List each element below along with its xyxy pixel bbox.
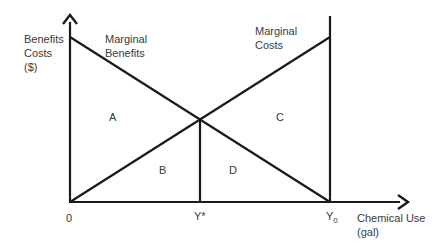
x-axis-label: Chemical Use (gal) [357,211,425,239]
mb-label-line1: Marginal [105,32,147,46]
region-d-label: D [229,163,237,177]
y0-tick-label: Y0 [326,209,338,228]
x-axis-label-line2: (gal) [357,225,425,239]
economics-diagram: Benefits Costs ($) Marginal Benefits Mar… [0,0,443,247]
y-axis-label-line3: ($) [24,60,64,74]
origin-tick-label: 0 [66,211,72,225]
marginal-benefits-label: Marginal Benefits [105,32,147,60]
mc-label-line1: Marginal [255,24,297,38]
y-axis-label: Benefits Costs ($) [24,32,64,74]
y-star-tick-label: Y* [194,209,206,223]
region-b-label: B [159,163,166,177]
region-a-label: A [109,110,116,124]
y-axis-label-line1: Benefits [24,32,64,46]
diagram-lines [0,0,443,247]
marginal-costs-label: Marginal Costs [255,24,297,52]
mb-label-line2: Benefits [105,46,147,60]
y-axis-label-line2: Costs [24,46,64,60]
mc-label-line2: Costs [255,38,297,52]
region-c-label: C [276,110,284,124]
y0-subscript: 0 [333,216,337,225]
x-axis-label-line1: Chemical Use [357,211,425,225]
